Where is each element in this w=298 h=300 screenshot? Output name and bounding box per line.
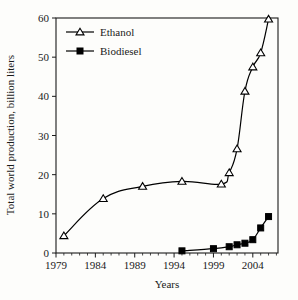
y-tick-label: 30 [38,130,50,142]
data-point-ethanol [265,15,273,22]
y-tick-label: 0 [44,247,50,259]
legend-marker-biodiesel [77,48,83,54]
data-point-biodiesel [179,248,185,254]
legend-entry-ethanol[interactable]: Ethanol [66,26,134,38]
line-chart: 0102030405060 197919841989199419992004 E… [0,0,298,300]
y-axis-tick-labels: 0102030405060 [38,12,50,259]
series-line-biodiesel [182,217,269,251]
x-axis-title: Years [155,278,180,290]
legend-label-biodiesel: Biodiesel [100,45,142,57]
data-point-biodiesel [210,246,216,252]
chart-legend: EthanolBiodiesel [66,26,142,57]
legend-label-ethanol: Ethanol [100,26,134,38]
x-tick-label: 1984 [84,259,107,271]
data-point-ethanol [241,87,249,94]
y-axis-ticks [52,18,56,253]
y-tick-label: 40 [38,90,50,102]
x-tick-label: 1979 [45,259,68,271]
data-point-ethanol [233,145,241,152]
data-point-ethanol [225,169,233,176]
y-tick-label: 10 [38,208,50,220]
x-tick-label: 1999 [202,259,225,271]
y-axis-title: Total world production, billion liters [4,55,16,215]
data-point-ethanol [257,49,265,56]
chart-figure: 0102030405060 197919841989199419992004 E… [0,0,298,300]
series-biodiesel [179,214,272,254]
y-tick-label: 60 [38,12,50,24]
data-point-biodiesel [266,214,272,220]
data-point-biodiesel [226,244,232,250]
data-point-biodiesel [250,237,256,243]
y-tick-label: 20 [38,169,50,181]
x-tick-label: 2004 [242,259,265,271]
data-point-ethanol [249,63,257,70]
series-ethanol [60,15,273,238]
x-axis-tick-labels: 197919841989199419992004 [45,259,264,271]
x-tick-label: 1994 [163,259,186,271]
x-axis-ticks [56,253,253,258]
data-point-ethanol [99,195,107,202]
data-point-biodiesel [234,242,240,248]
y-tick-label: 50 [38,51,50,63]
data-point-biodiesel [258,225,264,231]
x-tick-label: 1989 [124,259,147,271]
data-point-biodiesel [242,240,248,246]
plot-frame [56,18,278,253]
series-line-ethanol [64,19,269,236]
legend-entry-biodiesel[interactable]: Biodiesel [66,45,142,57]
